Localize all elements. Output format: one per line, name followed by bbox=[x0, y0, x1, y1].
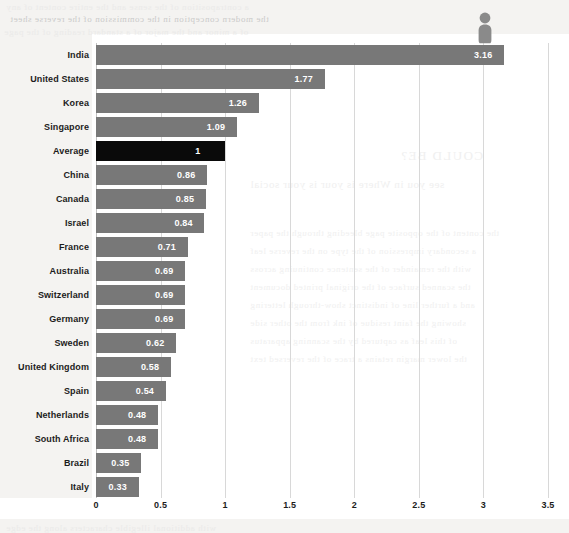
bar-row: United States1.77 bbox=[96, 69, 548, 89]
bar-row: Korea1.26 bbox=[96, 93, 548, 113]
bar-value-label: 0.69 bbox=[155, 285, 173, 305]
x-tick-label: 2 bbox=[352, 500, 357, 510]
category-label: South Africa bbox=[35, 429, 89, 449]
bar-row: South Africa0.48 bbox=[96, 429, 548, 449]
x-tick-label: 1.5 bbox=[283, 500, 296, 510]
bar bbox=[96, 429, 158, 449]
bar-value-label: 1 bbox=[195, 141, 200, 161]
bar-value-label: 0.86 bbox=[177, 165, 195, 185]
bar-value-label: 0.71 bbox=[158, 237, 176, 257]
category-label: Canada bbox=[56, 189, 89, 209]
category-label: Average bbox=[53, 141, 89, 161]
bar-row: Switzerland0.69 bbox=[96, 285, 548, 305]
x-tick-label: 2.5 bbox=[412, 500, 425, 510]
bar-value-label: 0.85 bbox=[176, 189, 194, 209]
bar-value-label: 1.77 bbox=[295, 69, 313, 89]
category-label: Germany bbox=[49, 309, 89, 329]
category-label: Italy bbox=[70, 477, 89, 497]
category-label: Israel bbox=[65, 213, 89, 233]
bar-row: Italy0.33 bbox=[96, 477, 548, 497]
bar-value-label: 1.09 bbox=[207, 117, 225, 137]
x-tick-label: 0 bbox=[93, 500, 98, 510]
x-tick-label: 0.5 bbox=[154, 500, 167, 510]
bar-value-label: 0.58 bbox=[141, 357, 159, 377]
bar bbox=[96, 69, 325, 89]
bar-row: Average1 bbox=[96, 141, 548, 161]
bar-row: Sweden0.62 bbox=[96, 333, 548, 353]
bar-chart: India3.16United States1.77Korea1.26Singa… bbox=[0, 0, 569, 533]
bar-row: United Kingdom0.58 bbox=[96, 357, 548, 377]
category-label: Spain bbox=[64, 381, 89, 401]
category-label: Singapore bbox=[44, 117, 89, 137]
category-label: France bbox=[59, 237, 89, 257]
category-label: Australia bbox=[50, 261, 89, 281]
bar-row: France0.71 bbox=[96, 237, 548, 257]
bar-row: Singapore1.09 bbox=[96, 117, 548, 137]
person-standing-icon bbox=[474, 12, 496, 46]
bar-value-label: 0.33 bbox=[109, 477, 127, 497]
x-tick-label: 1 bbox=[223, 500, 228, 510]
bar-value-label: 1.26 bbox=[229, 93, 247, 113]
category-label: United Kingdom bbox=[18, 357, 89, 377]
category-label: Korea bbox=[63, 93, 89, 113]
bar-row: Spain0.54 bbox=[96, 381, 548, 401]
bar-value-label: 0.48 bbox=[128, 429, 146, 449]
bar-row: Brazil0.35 bbox=[96, 453, 548, 473]
bar-row: Canada0.85 bbox=[96, 189, 548, 209]
bar-row: Australia0.69 bbox=[96, 261, 548, 281]
category-label: Switzerland bbox=[38, 285, 89, 305]
category-label: United States bbox=[30, 69, 89, 89]
category-label: Brazil bbox=[64, 453, 89, 473]
bar-row: Israel0.84 bbox=[96, 213, 548, 233]
bar bbox=[96, 357, 171, 377]
gridline bbox=[548, 43, 549, 498]
x-tick-label: 3 bbox=[481, 500, 486, 510]
bar-row: China0.86 bbox=[96, 165, 548, 185]
plot-area: India3.16United States1.77Korea1.26Singa… bbox=[96, 43, 548, 498]
bar-value-label: 0.62 bbox=[146, 333, 164, 353]
bar-value-label: 0.35 bbox=[111, 453, 129, 473]
bar-rows: India3.16United States1.77Korea1.26Singa… bbox=[96, 43, 548, 498]
bar bbox=[96, 141, 225, 161]
category-label: Netherlands bbox=[36, 405, 89, 425]
category-label: India bbox=[67, 45, 89, 65]
bar-value-label: 3.16 bbox=[474, 45, 492, 65]
category-label: China bbox=[63, 165, 89, 185]
x-tick-label: 3.5 bbox=[541, 500, 554, 510]
bar-value-label: 0.69 bbox=[155, 309, 173, 329]
bar bbox=[96, 45, 504, 65]
category-label: Sweden bbox=[54, 333, 89, 353]
bar-value-label: 0.69 bbox=[155, 261, 173, 281]
bar-value-label: 0.48 bbox=[128, 405, 146, 425]
bar-row: Netherlands0.48 bbox=[96, 405, 548, 425]
bar-row: India3.16 bbox=[96, 45, 548, 65]
bar bbox=[96, 381, 166, 401]
bar-row: Germany0.69 bbox=[96, 309, 548, 329]
bar-value-label: 0.54 bbox=[136, 381, 154, 401]
bar-value-label: 0.84 bbox=[174, 213, 192, 233]
bar bbox=[96, 405, 158, 425]
x-axis: 00.511.522.533.5 bbox=[96, 500, 548, 522]
